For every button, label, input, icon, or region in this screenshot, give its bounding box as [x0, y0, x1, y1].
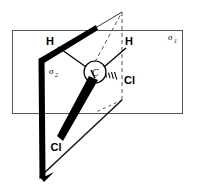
sigma-2-symbol: σ: [49, 66, 54, 76]
label-hydrogen-left: H: [46, 35, 54, 47]
molecular-symmetry-diagram: C H H Cl Cl σ 1 σ 2: [0, 0, 199, 191]
label-chlorine-bottom: Cl: [51, 141, 62, 153]
sigma-2-subscript: 2: [55, 72, 58, 78]
label-chlorine-right: Cl: [124, 74, 135, 86]
sigma-1-symbol: σ: [168, 32, 173, 42]
diagram-canvas: C H H Cl Cl σ 1 σ 2: [0, 0, 199, 191]
label-hydrogen-right: H: [125, 35, 133, 47]
sigma-2-left-edge-bold: [39, 56, 46, 179]
carbon-label: C: [92, 67, 99, 78]
center-carbon-group: C: [84, 61, 106, 83]
sigma-1-subscript: 1: [174, 38, 177, 44]
